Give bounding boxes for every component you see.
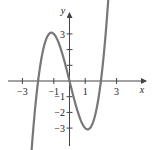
y-tick-label: −3	[54, 123, 65, 134]
y-axis-label: y	[60, 5, 66, 16]
x-axis-label: x	[139, 84, 145, 95]
x-tick-label: −3	[17, 86, 28, 97]
cubic-graph: −3 −1 1 3 x 3 −1 −2 −3 y	[0, 0, 155, 150]
y-tick-label: −2	[54, 107, 65, 118]
x-tick-label: 1	[83, 86, 88, 97]
y-tick-label: −1	[54, 91, 65, 102]
x-tick-label: 3	[114, 86, 119, 97]
y-tick-label: 3	[60, 29, 65, 40]
